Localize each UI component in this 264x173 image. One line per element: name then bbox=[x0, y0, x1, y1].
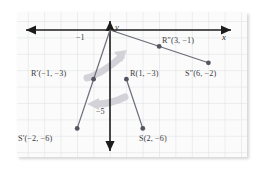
figure-container: y x −1 −5 R″(3, −1) S″(6, −2) R(1, −3) R… bbox=[0, 0, 264, 173]
point-label-S-double-prime: S″(6, −2) bbox=[185, 69, 216, 78]
segment-R2S2 bbox=[110, 30, 211, 65]
segment-R1S1 bbox=[75, 30, 110, 131]
x-axis bbox=[26, 25, 231, 34]
y-tick-label-neg5: −5 bbox=[96, 107, 105, 116]
y-axis-label: y bbox=[115, 22, 119, 32]
arrow-left-icon bbox=[87, 97, 125, 110]
point-label-R-double-prime: R″(3, −1) bbox=[162, 36, 194, 45]
arrow-up-right-icon bbox=[87, 50, 127, 78]
point-label-R: R(1, −3) bbox=[130, 69, 159, 78]
point-label-S: S(2, −6) bbox=[139, 134, 167, 143]
point-label-R-prime: R′(−1, −3) bbox=[31, 69, 66, 78]
x-tick-label-neg1: −1 bbox=[76, 33, 85, 42]
point-label-S-prime: S′(−2, −6) bbox=[18, 134, 52, 143]
coordinate-plane-panel: y x −1 −5 R″(3, −1) S″(6, −2) R(1, −3) R… bbox=[17, 12, 247, 157]
x-axis-label: x bbox=[222, 32, 226, 42]
segment-RS bbox=[124, 77, 145, 131]
